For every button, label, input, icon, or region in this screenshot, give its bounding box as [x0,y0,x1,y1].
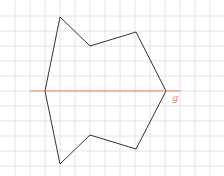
symmetry-diagram: g [0,0,224,176]
grid [0,0,224,176]
line-label-g: g [172,92,178,103]
